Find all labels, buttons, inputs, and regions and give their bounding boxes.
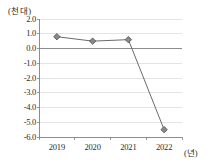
x-axis-tick-labels: 2019202020212022 — [0, 0, 211, 164]
x-tick-label: 2022 — [147, 143, 181, 152]
x-tick-label: 2019 — [40, 143, 74, 152]
x-axis-unit-label: (년) — [184, 146, 198, 158]
x-tick-label: 2021 — [111, 143, 145, 152]
line-chart: (천 대) 2.01.00.0-1.0-2.0-3.0-4.0-5.0-6.0 … — [0, 0, 211, 164]
x-tick-label: 2020 — [76, 143, 110, 152]
